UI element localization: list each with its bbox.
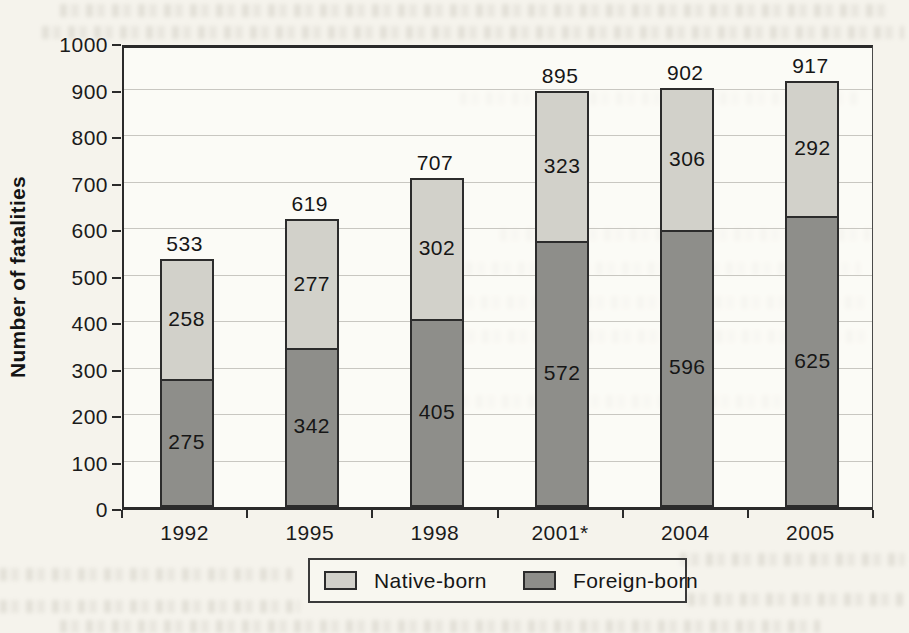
legend-label: Native-born xyxy=(374,569,487,593)
bar-2004-native-born: 306 xyxy=(660,88,714,232)
y-tick-600 xyxy=(112,230,121,232)
y-tick-400 xyxy=(112,323,121,325)
gridline-400 xyxy=(124,321,872,322)
y-tick-label-300: 300 xyxy=(0,358,108,384)
fatalities-stacked-bar-chart: Number of fatalities 2752583422774053025… xyxy=(0,0,909,633)
bar-value-1992-foreign-born: 275 xyxy=(162,430,212,454)
plot-area: 275258342277405302572323596306625292 xyxy=(122,45,873,510)
y-tick-label-1000: 1000 xyxy=(0,32,108,58)
bar-2005-foreign-born: 625 xyxy=(785,216,839,507)
y-tick-label-0: 0 xyxy=(0,497,108,523)
bar-value-2005-foreign-born: 625 xyxy=(787,349,837,373)
y-tick-500 xyxy=(112,277,121,279)
bar-1998-foreign-born: 405 xyxy=(410,319,464,507)
bar-1995-native-born: 277 xyxy=(285,219,339,350)
bar-1998-native-born: 302 xyxy=(410,178,464,320)
y-tick-1000 xyxy=(112,44,121,46)
bar-total-2005: 917 xyxy=(750,54,870,78)
x-tick-5 xyxy=(747,510,749,518)
legend-item-foreign-born: Foreign-born xyxy=(523,569,698,593)
legend-item-native-born: Native-born xyxy=(324,569,487,593)
gridline-200 xyxy=(124,414,872,415)
bar-2004-foreign-born: 596 xyxy=(660,230,714,507)
bar-value-1995-native-born: 277 xyxy=(287,272,337,296)
scanned-page: Number of fatalities 2752583422774053025… xyxy=(0,0,909,633)
y-tick-label-700: 700 xyxy=(0,172,108,198)
x-tick-3 xyxy=(497,510,499,518)
bar-value-2001*-native-born: 323 xyxy=(537,154,587,178)
bar-value-1998-native-born: 302 xyxy=(412,236,462,260)
gridline-300 xyxy=(124,368,872,369)
y-tick-700 xyxy=(112,184,121,186)
bar-total-1998: 707 xyxy=(375,151,495,175)
gridline-800 xyxy=(124,135,872,136)
gridline-500 xyxy=(124,275,872,276)
y-tick-label-500: 500 xyxy=(0,265,108,291)
y-tick-label-400: 400 xyxy=(0,311,108,337)
bar-total-1995: 619 xyxy=(250,192,370,216)
y-tick-100 xyxy=(112,463,121,465)
bar-value-2004-foreign-born: 596 xyxy=(662,355,712,379)
x-tick-1 xyxy=(246,510,248,518)
x-tick-label-1998: 1998 xyxy=(375,521,495,545)
gridline-100 xyxy=(124,461,872,462)
bar-2005-native-born: 292 xyxy=(785,81,839,219)
y-tick-label-200: 200 xyxy=(0,404,108,430)
x-tick-label-2004: 2004 xyxy=(625,521,745,545)
bar-value-1995-foreign-born: 342 xyxy=(287,414,337,438)
x-tick-2 xyxy=(371,510,373,518)
gridline-700 xyxy=(124,182,872,183)
x-tick-label-1995: 1995 xyxy=(250,521,370,545)
x-tick-4 xyxy=(622,510,624,518)
y-tick-900 xyxy=(112,91,121,93)
bar-2001*-native-born: 323 xyxy=(535,91,589,243)
native-born-swatch xyxy=(324,571,357,590)
bar-value-1992-native-born: 258 xyxy=(162,307,212,331)
bar-1992-native-born: 258 xyxy=(160,259,214,381)
bar-total-2001*: 895 xyxy=(500,64,620,88)
y-tick-label-800: 800 xyxy=(0,125,108,151)
y-tick-800 xyxy=(112,137,121,139)
x-tick-label-2001*: 2001* xyxy=(500,521,620,545)
y-tick-label-100: 100 xyxy=(0,451,108,477)
y-tick-300 xyxy=(112,370,121,372)
y-tick-0 xyxy=(112,509,121,511)
bar-total-2004: 902 xyxy=(625,61,745,85)
x-tick-label-2005: 2005 xyxy=(750,521,870,545)
bar-value-2005-native-born: 292 xyxy=(787,136,837,160)
y-tick-200 xyxy=(112,416,121,418)
legend: Native-born Foreign-born xyxy=(308,558,687,603)
bar-2001*-foreign-born: 572 xyxy=(535,241,589,507)
bar-total-1992: 533 xyxy=(125,232,245,256)
legend-label: Foreign-born xyxy=(573,569,698,593)
x-tick-label-1992: 1992 xyxy=(125,521,245,545)
x-tick-6 xyxy=(872,510,874,518)
y-tick-label-900: 900 xyxy=(0,79,108,105)
gridline-600 xyxy=(124,228,872,229)
bar-1992-foreign-born: 275 xyxy=(160,379,214,507)
bar-value-1998-foreign-born: 405 xyxy=(412,400,462,424)
bar-value-2001*-foreign-born: 572 xyxy=(537,361,587,385)
bar-1995-foreign-born: 342 xyxy=(285,348,339,507)
bar-value-2004-native-born: 306 xyxy=(662,147,712,171)
x-tick-0 xyxy=(121,510,123,518)
gridline-900 xyxy=(124,89,872,90)
y-tick-label-600: 600 xyxy=(0,218,108,244)
foreign-born-swatch xyxy=(523,571,556,590)
